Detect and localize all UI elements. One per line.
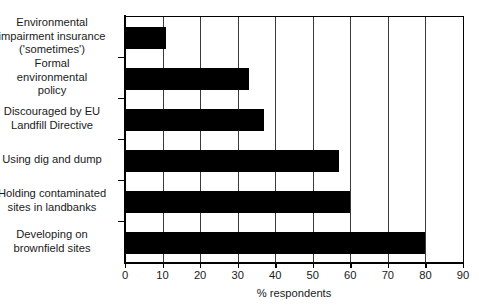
x-axis-label: % respondents xyxy=(125,287,463,299)
y-axis-line xyxy=(124,15,126,263)
gridline-40 xyxy=(275,17,276,263)
gridline-50 xyxy=(313,17,314,263)
x-tick-label-90: 90 xyxy=(443,269,479,281)
x-tick-label-80: 80 xyxy=(405,269,445,281)
category-label: Using dig and dump xyxy=(0,153,108,166)
x-tick-80 xyxy=(425,263,426,268)
category-label: Holding contaminated sites in landbanks xyxy=(0,187,108,214)
x-tick-50 xyxy=(313,263,314,268)
x-tick-label-40: 40 xyxy=(255,269,295,281)
category-label: Developing on brownfield sites xyxy=(0,228,108,255)
x-tick-label-10: 10 xyxy=(143,269,183,281)
gridline-20 xyxy=(200,17,201,263)
y-tick xyxy=(118,57,124,58)
bar xyxy=(125,68,249,90)
y-tick xyxy=(118,180,124,181)
category-label: Environmental impairment insurance ('som… xyxy=(0,16,108,56)
x-tick-label-20: 20 xyxy=(180,269,220,281)
bar xyxy=(125,109,264,131)
x-tick-10 xyxy=(163,263,164,268)
bar xyxy=(125,232,425,254)
x-tick-label-0: 0 xyxy=(105,269,145,281)
x-tick-20 xyxy=(200,263,201,268)
y-tick xyxy=(118,98,124,99)
x-tick-40 xyxy=(275,263,276,268)
x-tick-label-60: 60 xyxy=(330,269,370,281)
x-tick-90 xyxy=(463,263,464,268)
x-tick-60 xyxy=(350,263,351,268)
gridline-30 xyxy=(238,17,239,263)
category-label: Discouraged by EU Landfill Directive xyxy=(0,105,108,132)
gridline-80 xyxy=(425,17,426,263)
x-tick-label-70: 70 xyxy=(368,269,408,281)
category-axis: Environmental impairment insurance ('som… xyxy=(0,16,116,262)
gridline-70 xyxy=(388,17,389,263)
x-tick-label-30: 30 xyxy=(218,269,258,281)
x-tick-0 xyxy=(125,263,126,268)
plot-area xyxy=(125,16,464,263)
y-tick xyxy=(118,221,124,222)
bar xyxy=(125,27,166,49)
y-tick xyxy=(118,139,124,140)
bar xyxy=(125,150,339,172)
x-axis-line xyxy=(124,262,464,264)
bar xyxy=(125,191,350,213)
gridline-60 xyxy=(350,17,351,263)
category-label: Formal environmental policy xyxy=(0,57,108,97)
gridline-10 xyxy=(163,17,164,263)
x-tick-30 xyxy=(238,263,239,268)
x-tick-label-50: 50 xyxy=(293,269,333,281)
x-tick-70 xyxy=(388,263,389,268)
bar-chart: Environmental impairment insurance ('som… xyxy=(0,0,479,305)
